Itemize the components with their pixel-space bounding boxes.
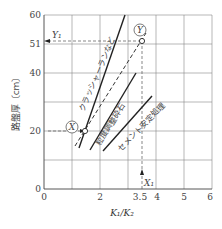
x-tick-6: 6 xyxy=(207,192,213,202)
y-tick-40: 40 xyxy=(30,68,42,78)
y-ticks: 60 51 40 20 0 xyxy=(30,10,42,194)
y-axis-title: 路盤厚〔cm〕 xyxy=(10,73,21,132)
x-tick-0: 0 xyxy=(41,192,47,202)
y1-label: Y₁ xyxy=(52,30,62,40)
y-tick-60: 60 xyxy=(30,10,42,20)
pavement-thickness-chart: 60 51 40 20 0 0 2 3.5 4 5 6 K₁/K₂ 路盤厚〔cm… xyxy=(0,0,222,229)
x1-label: X₁ xyxy=(143,178,154,188)
point-x-marker xyxy=(82,128,87,133)
y-tick-20: 20 xyxy=(30,126,42,136)
point-y-label: Y xyxy=(137,25,144,35)
point-y-marker xyxy=(139,38,144,43)
y-tick-51: 51 xyxy=(30,39,41,49)
x-tick-3-5: 3.5 xyxy=(133,192,148,202)
x-tick-5: 5 xyxy=(181,192,187,202)
series-label-crusher-run: クラッシャーランなど xyxy=(78,36,118,113)
x-ticks: 0 2 3.5 4 5 6 xyxy=(41,192,213,202)
y1-arrow-icon xyxy=(44,39,50,43)
point-x-label: X xyxy=(68,122,76,132)
x1-arrow-icon xyxy=(140,169,144,175)
x-tick-4: 4 xyxy=(154,192,160,202)
x-tick-2: 2 xyxy=(97,192,103,202)
x-axis-title: K₁/K₂ xyxy=(109,208,134,218)
